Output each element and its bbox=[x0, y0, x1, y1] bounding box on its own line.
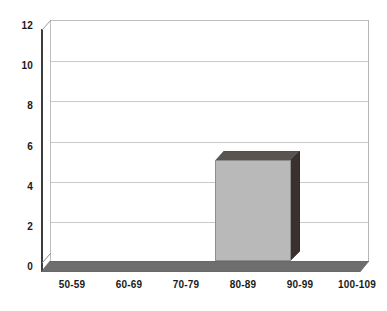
bar-80-89[interactable] bbox=[215, 151, 300, 261]
gridline bbox=[51, 61, 368, 62]
x-tick-label-4: 90-99 bbox=[272, 279, 328, 291]
x-axis: 50-59 60-69 70-79 80-89 90-99 100-109 bbox=[41, 279, 369, 295]
y-tick-label: 12 bbox=[0, 21, 33, 31]
x-tick-label-1: 60-69 bbox=[101, 279, 157, 291]
y-axis: 12 10 8 6 4 2 0 bbox=[0, 0, 33, 311]
x-tick-label-3: 80-89 bbox=[215, 279, 271, 291]
chart-floor bbox=[41, 261, 369, 272]
y-tick-label: 10 bbox=[0, 61, 33, 71]
gridline bbox=[51, 222, 368, 223]
depth-edge-top bbox=[41, 20, 51, 30]
y-tick-label: 0 bbox=[0, 262, 33, 272]
x-tick-label-0: 50-59 bbox=[44, 279, 100, 291]
y-tick-label: 4 bbox=[0, 182, 33, 192]
gridline bbox=[51, 101, 368, 102]
gridline bbox=[51, 142, 368, 143]
plot-area bbox=[41, 20, 369, 272]
x-tick-label-5: 100-109 bbox=[326, 279, 387, 291]
bar-chart: 12 10 8 6 4 2 0 bbox=[0, 0, 387, 311]
gridline bbox=[51, 182, 368, 183]
plot-back-wall bbox=[50, 20, 369, 262]
y-axis-line bbox=[41, 29, 43, 272]
y-tick-label: 8 bbox=[0, 101, 33, 111]
y-tick-label: 2 bbox=[0, 222, 33, 232]
x-tick-label-2: 70-79 bbox=[158, 279, 214, 291]
bar-side-face bbox=[290, 151, 300, 261]
y-tick-label: 6 bbox=[0, 142, 33, 152]
bar-front-face bbox=[215, 160, 291, 261]
